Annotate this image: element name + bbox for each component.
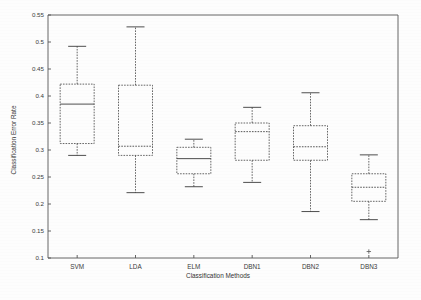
boxplot-canvas: 0.550.50.450.40.350.30.250.20.150.1 SVML…: [0, 0, 421, 300]
y-tick-label: 0.15: [32, 227, 45, 234]
x-tick-label: LDA: [129, 263, 142, 270]
box-plot-dbn3: [352, 155, 386, 254]
box-plot-svm: [60, 46, 94, 155]
box-series: [60, 27, 386, 254]
box-plot-dbn2: [294, 93, 328, 212]
y-tick-label: 0.5: [35, 38, 44, 45]
y-tick-label: 0.45: [32, 65, 45, 72]
x-tick-label: SVM: [70, 263, 84, 270]
box-plot-dbn1: [235, 107, 269, 182]
x-axis-ticks: SVMLDAELMDBN1DBN2DBN3: [70, 255, 378, 270]
y-axis-title: Classification Error Rate: [10, 105, 17, 174]
y-tick-label: 0.4: [35, 92, 44, 99]
x-axis-title: Classification Methods: [186, 272, 250, 279]
y-tick-label: 0.2: [35, 200, 44, 207]
x-tick-label: ELM: [187, 263, 200, 270]
x-tick-label: DBN2: [302, 263, 319, 270]
interquartile-box: [177, 147, 211, 173]
x-tick-label: DBN3: [360, 263, 377, 270]
interquartile-box: [235, 123, 269, 160]
box-plot-lda: [119, 27, 153, 193]
interquartile-box: [119, 85, 153, 155]
y-tick-label: 0.1: [35, 254, 44, 261]
y-tick-label: 0.25: [32, 173, 45, 180]
interquartile-box: [60, 84, 94, 143]
box-plot-elm: [177, 139, 211, 187]
interquartile-box: [294, 126, 328, 161]
y-tick-label: 0.3: [35, 146, 44, 153]
boxplot-figure: 0.550.50.450.40.350.30.250.20.150.1 SVML…: [0, 0, 421, 300]
y-tick-label: 0.55: [32, 11, 45, 18]
x-tick-label: DBN1: [244, 263, 261, 270]
axes-frame: [48, 15, 398, 258]
y-tick-label: 0.35: [32, 119, 45, 126]
